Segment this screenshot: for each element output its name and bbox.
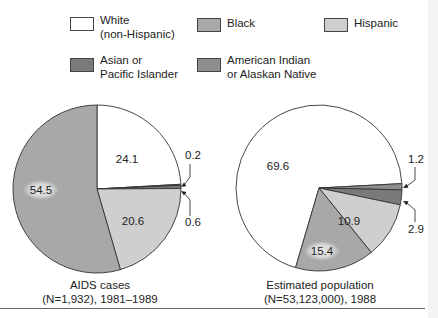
page-edge [428, 0, 438, 318]
caption-estimated-population: Estimated population (N=53,123,000), 198… [240, 278, 400, 306]
caption-aids-cases: AIDS cases (N=1,932), 1981–1989 [20, 278, 180, 306]
pie-charts: 24.154.520.60.20.669.615.410.91.22.9 [0, 0, 438, 318]
label-black: 54.5 [30, 184, 52, 196]
label-asian: 2.9 [408, 223, 424, 235]
label-hispanic: 10.9 [338, 215, 360, 227]
label-american-indian: 0.2 [185, 149, 201, 161]
label-white: 69.6 [267, 160, 289, 172]
bottom-rule [0, 308, 425, 309]
label-hispanic: 20.6 [122, 215, 144, 227]
leader-line [407, 167, 415, 186]
label-black: 15.4 [311, 245, 334, 257]
label-american-indian: 1.2 [408, 153, 424, 165]
label-white: 24.1 [116, 153, 138, 165]
pie-slice [97, 105, 181, 189]
leader-line [407, 203, 415, 222]
leader-line [184, 164, 190, 185]
label-asian: 0.6 [185, 216, 201, 228]
leader-line [184, 193, 190, 216]
